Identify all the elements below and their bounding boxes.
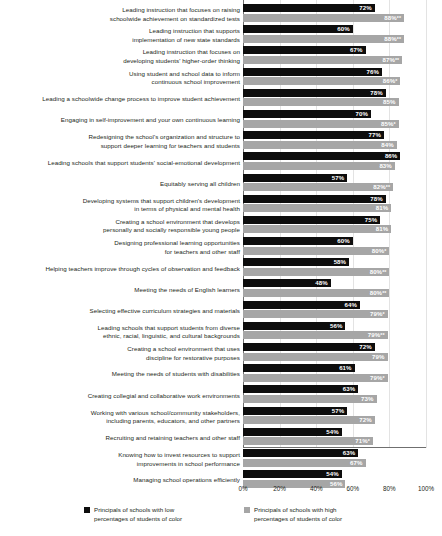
row-category-label: Creating a school environment that devel… bbox=[0, 218, 243, 235]
row-category-label: Knowing how to invest resources to suppo… bbox=[0, 451, 243, 468]
bar-value-label: 58% bbox=[319, 258, 346, 266]
bar-line-low: 72% bbox=[243, 343, 442, 351]
bar-line-high: 83% bbox=[243, 162, 442, 170]
row-category-label: Leading schools that support students' s… bbox=[0, 159, 243, 168]
bar-line-low: 70% bbox=[243, 110, 442, 118]
chart-row: Leading a schoolwide change process to i… bbox=[0, 89, 442, 110]
row-category-label: Meeting the needs of students with disab… bbox=[0, 370, 243, 379]
bar-value-label: 85% bbox=[369, 98, 396, 106]
bar-line-low: 77% bbox=[243, 131, 442, 139]
chart-legend: Principals of schools with low percentag… bbox=[0, 506, 442, 536]
bar-line-high: 84% bbox=[243, 141, 442, 149]
x-axis-ticks: 0%20%40%60%80%100% bbox=[243, 484, 442, 498]
row-bars: 78%85% bbox=[243, 89, 442, 110]
bar-line-high: 72% bbox=[243, 416, 442, 424]
bar-line-low: 63% bbox=[243, 385, 442, 393]
significance-marker: * bbox=[384, 248, 386, 254]
bar-value-label: 73% bbox=[347, 395, 374, 403]
bar-line-low: 54% bbox=[243, 470, 442, 478]
chart-row: Developing systems that support children… bbox=[0, 195, 442, 216]
row-bars: 86%83% bbox=[243, 152, 442, 173]
row-bars: 67%87%** bbox=[243, 46, 442, 67]
significance-marker: ** bbox=[386, 184, 390, 190]
chart-row: Using student and school data to inform … bbox=[0, 68, 442, 89]
bar-value-label: 82%** bbox=[363, 183, 390, 191]
row-bars: 60%88%** bbox=[243, 25, 442, 46]
chart-row: Meeting the needs of students with disab… bbox=[0, 364, 442, 385]
bar-line-high: 88%** bbox=[243, 14, 442, 22]
significance-marker: ** bbox=[395, 57, 399, 63]
bar-value-label: 56% bbox=[315, 322, 342, 330]
bar-value-label: 81% bbox=[361, 204, 388, 212]
bar-value-label: 61% bbox=[325, 364, 352, 372]
bar-line-low: 72% bbox=[243, 4, 442, 12]
chart-row: Helping teachers improve through cycles … bbox=[0, 258, 442, 279]
bar-line-low: 67% bbox=[243, 46, 442, 54]
row-category-label: Redesigning the school's organization an… bbox=[0, 133, 243, 150]
bar-line-low: 57% bbox=[243, 174, 442, 182]
row-category-label: Working with various school/community st… bbox=[0, 409, 243, 426]
chart-row: Creating collegial and collaborative wor… bbox=[0, 385, 442, 406]
bar-value-label: 79% bbox=[358, 353, 385, 361]
bar-value-label: 67% bbox=[336, 46, 363, 54]
bar-line-low: 61% bbox=[243, 364, 442, 372]
significance-marker: * bbox=[382, 311, 384, 317]
chart-row: Leading schools that support students' s… bbox=[0, 152, 442, 173]
chart-row: Meeting the needs of English learners48%… bbox=[0, 279, 442, 300]
bar-value-label: 76% bbox=[352, 68, 379, 76]
row-bars: 64%79%* bbox=[243, 301, 442, 322]
legend-item[interactable]: Principals of schools with low percentag… bbox=[84, 506, 182, 523]
bar-value-label: 67% bbox=[336, 459, 363, 467]
bar-value-label: 84% bbox=[367, 141, 394, 149]
significance-marker: ** bbox=[397, 36, 401, 42]
legend-label: Principals of schools with high percenta… bbox=[254, 506, 342, 523]
bar-line-high: 81% bbox=[243, 204, 442, 212]
row-category-label: Selecting effective curriculum strategie… bbox=[0, 307, 243, 316]
row-category-label: Using student and school data to inform … bbox=[0, 70, 243, 87]
bar-line-low: 60% bbox=[243, 25, 442, 33]
row-category-label: Engaging in self-improvement and your ow… bbox=[0, 116, 243, 125]
x-tick-label: 60% bbox=[346, 484, 359, 493]
bar-line-low: 60% bbox=[243, 237, 442, 245]
x-tick-label: 0% bbox=[238, 484, 247, 493]
bar-line-high: 80%* bbox=[243, 247, 442, 255]
row-bars: 75%81% bbox=[243, 216, 442, 237]
x-tick-label: 40% bbox=[310, 484, 323, 493]
bar-value-label: 71%* bbox=[343, 437, 370, 445]
bar-line-high: 73% bbox=[243, 395, 442, 403]
bar-value-label: 86%* bbox=[370, 77, 397, 85]
bar-line-high: 80%** bbox=[243, 268, 442, 276]
row-category-label: Developing systems that support children… bbox=[0, 197, 243, 214]
chart-row: Engaging in self-improvement and your ow… bbox=[0, 110, 442, 131]
bar-value-label: 78% bbox=[356, 195, 383, 203]
chart-row: Selecting effective curriculum strategie… bbox=[0, 301, 442, 322]
row-bars: 78%81% bbox=[243, 195, 442, 216]
chart-row: Leading schools that support students fr… bbox=[0, 322, 442, 343]
row-bars: 58%80%** bbox=[243, 258, 442, 279]
chart-row: Creating a school environment that devel… bbox=[0, 216, 442, 237]
chart-row: Equitably serving all children57%82%** bbox=[0, 174, 442, 195]
row-category-label: Leading instruction that focuses on rais… bbox=[0, 6, 243, 23]
bar-value-label: 60% bbox=[323, 25, 350, 33]
bar-value-label: 79%** bbox=[358, 331, 385, 339]
chart-row: Recruiting and retaining teachers and ot… bbox=[0, 428, 442, 449]
row-category-label: Designing professional learning opportun… bbox=[0, 239, 243, 256]
row-bars: 72%88%** bbox=[243, 4, 442, 25]
bar-value-label: 80%** bbox=[359, 268, 386, 276]
row-bars: 63%73% bbox=[243, 385, 442, 406]
row-category-label: Helping teachers improve through cycles … bbox=[0, 265, 243, 274]
bar-line-high: 71%* bbox=[243, 437, 442, 445]
bar-line-high: 85% bbox=[243, 98, 442, 106]
significance-marker: ** bbox=[397, 15, 401, 21]
bar-value-label: 72% bbox=[345, 343, 372, 351]
legend-item[interactable]: Principals of schools with high percenta… bbox=[244, 506, 342, 523]
bar-line-low: 86% bbox=[243, 152, 442, 160]
bar-value-label: 80%* bbox=[359, 247, 386, 255]
significance-marker: * bbox=[395, 78, 397, 84]
bar-line-high: 85%* bbox=[243, 120, 442, 128]
bar-value-label: 63% bbox=[328, 449, 355, 457]
bar-value-label: 79%* bbox=[358, 374, 385, 382]
legend-swatch-high-icon bbox=[244, 507, 250, 513]
chart-row: Designing professional learning opportun… bbox=[0, 237, 442, 258]
row-bars: 56%79%** bbox=[243, 322, 442, 343]
